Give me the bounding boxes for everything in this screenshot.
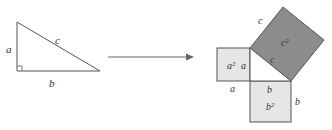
left-triangle: a c b [6, 22, 100, 89]
label-c-square: c² [281, 37, 289, 48]
label-b-square: b² [266, 101, 275, 112]
arrow-right-icon [108, 54, 194, 61]
label-a-inner: a [241, 60, 246, 71]
label-a-bottom: a [230, 83, 235, 94]
pythagorean-diagram: a c b c c² c a² a a b b² b [0, 0, 332, 130]
label-a-square: a² [227, 60, 236, 71]
label-b-inner: b [267, 84, 272, 95]
right-angle-marker [17, 66, 22, 71]
label-a: a [6, 43, 12, 55]
label-b: b [49, 77, 55, 89]
label-c: c [55, 34, 60, 46]
label-b-right: b [295, 96, 300, 107]
label-c-outer: c [258, 15, 263, 26]
label-c-inner: c [270, 54, 275, 65]
squares-figure: c c² c a² a a b b² b [217, 7, 324, 122]
right-triangle [17, 22, 100, 71]
